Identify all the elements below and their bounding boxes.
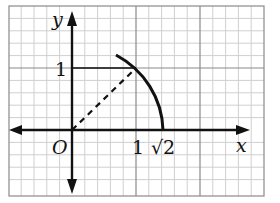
x-tick-one: 1: [132, 138, 144, 157]
x-axis-left-arrow: [9, 125, 22, 135]
y-axis-label: y: [52, 10, 63, 29]
coordinate-diagram: [0, 0, 280, 203]
y-axis-down-arrow: [67, 179, 77, 194]
dashed-radius: [72, 68, 136, 130]
origin-label: O: [52, 138, 68, 157]
x-tick-sqrt2: √2: [151, 138, 175, 157]
y-tick-one: 1: [55, 60, 67, 79]
x-axis-label: x: [236, 136, 247, 155]
